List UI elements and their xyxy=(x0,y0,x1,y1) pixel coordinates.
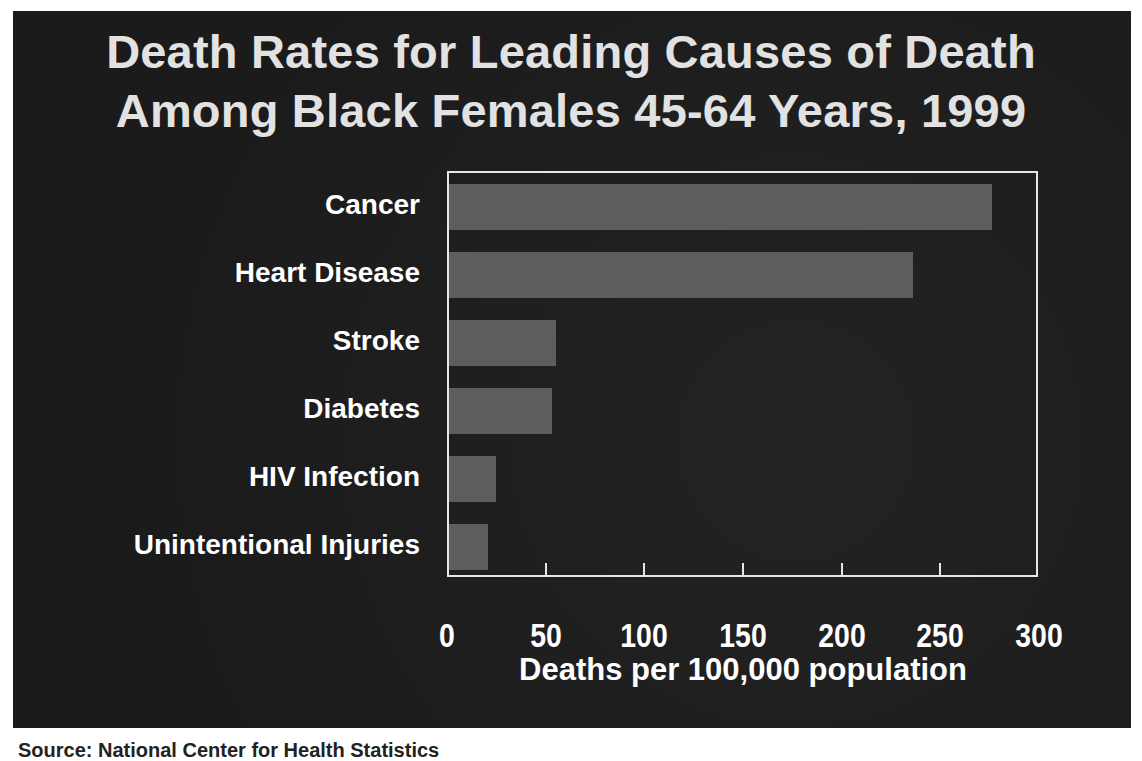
x-axis-tick xyxy=(939,563,941,575)
plot-area: 27623655532521 xyxy=(447,171,1038,577)
source-note: Source: National Center for Health Stati… xyxy=(18,738,439,761)
category-label: Cancer xyxy=(325,182,420,228)
x-axis-tick xyxy=(545,563,547,575)
x-axis-tick xyxy=(742,563,744,575)
chart-title-line-2: Among Black Females 45-64 Years, 1999 xyxy=(0,81,1142,140)
category-label: Heart Disease xyxy=(235,250,420,296)
bar-heart-disease: 236 xyxy=(449,252,913,298)
bar-stroke: 55 xyxy=(449,320,556,366)
chart-title-line-1: Death Rates for Leading Causes of Death xyxy=(0,22,1142,81)
chart-title: Death Rates for Leading Causes of Death … xyxy=(0,22,1142,140)
category-label: HIV Infection xyxy=(249,454,420,500)
x-axis-tick xyxy=(841,563,843,575)
category-label: Unintentional Injuries xyxy=(134,522,420,568)
category-label: Diabetes xyxy=(303,386,420,432)
x-axis-tick xyxy=(643,563,645,575)
x-axis-title: Deaths per 100,000 population xyxy=(443,645,1043,695)
bar-cancer: 276 xyxy=(449,184,992,230)
bar-hiv-infection: 25 xyxy=(449,456,496,502)
bar-unintentional-injuries: 21 xyxy=(449,524,488,570)
bar-diabetes: 53 xyxy=(449,388,552,434)
category-label: Stroke xyxy=(333,318,420,364)
